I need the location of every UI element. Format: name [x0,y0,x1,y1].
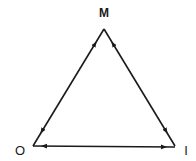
node-label-m: M [99,6,109,20]
edge-m-i [104,29,175,146]
triangle-diagram: M O I [0,0,196,161]
edge-o-i [33,146,175,147]
node-label-i: I [184,143,188,158]
node-label-o: O [15,143,25,158]
edge-m-o [33,29,104,146]
